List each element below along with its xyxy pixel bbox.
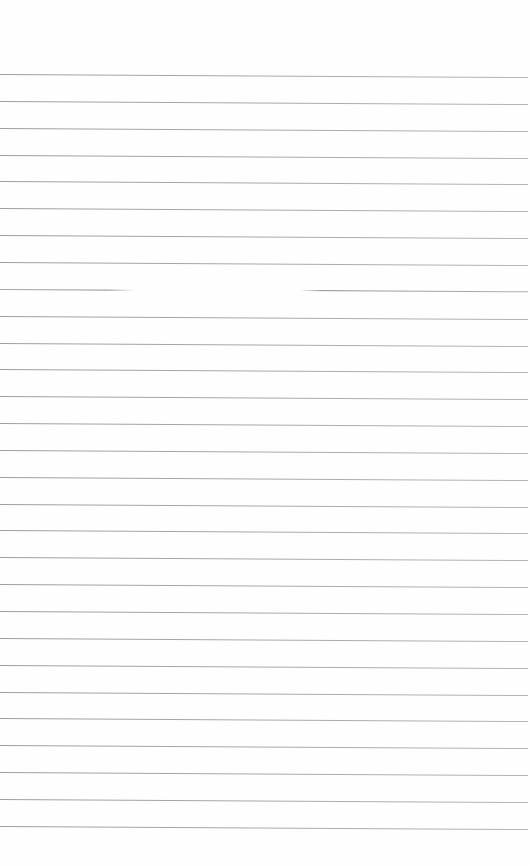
ruled-line [0, 718, 528, 722]
ruled-line [0, 450, 528, 454]
ruled-line [0, 235, 528, 239]
ruled-line [0, 557, 528, 561]
ruled-line [0, 799, 528, 803]
ruled-line [0, 611, 528, 615]
lined-paper-page [0, 0, 530, 865]
ruled-line [0, 772, 528, 776]
ruled-line [0, 74, 528, 78]
ruled-line-segment [0, 289, 135, 291]
ruled-line [0, 343, 528, 347]
ruled-line [0, 530, 528, 534]
ruled-line [0, 504, 528, 508]
ruled-line [0, 101, 528, 105]
ruled-line-segment [300, 290, 528, 292]
ruled-line [0, 262, 528, 266]
ruled-line [0, 423, 528, 427]
ruled-line [0, 181, 528, 185]
ruled-line [0, 745, 528, 749]
ruled-line [0, 826, 528, 830]
ruled-line [0, 208, 528, 212]
ruled-line [0, 638, 528, 642]
ruled-line [0, 128, 528, 132]
ruled-line [0, 692, 528, 696]
ruled-line [0, 369, 528, 373]
ruled-line [0, 396, 528, 400]
ruled-line [0, 155, 528, 159]
ruled-line [0, 665, 528, 669]
ruled-line [0, 477, 528, 481]
ruled-line [0, 584, 528, 588]
ruled-line [0, 316, 528, 320]
